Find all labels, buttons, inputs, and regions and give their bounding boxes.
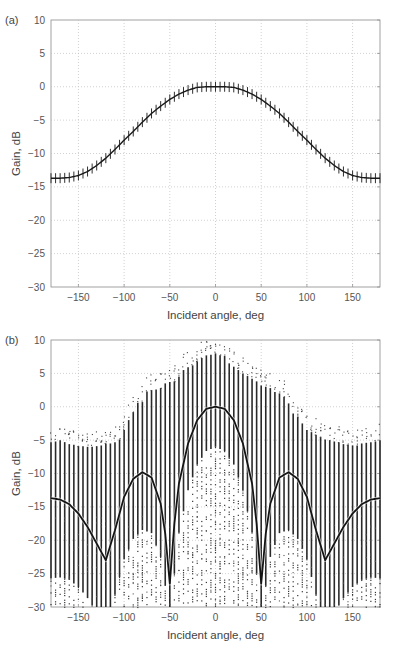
panel-label: (b) — [5, 334, 18, 346]
y-tick-label: −20 — [28, 535, 45, 546]
y-tick-label: −10 — [28, 468, 45, 479]
y-tick-label: −15 — [28, 501, 45, 512]
x-tick-label: 150 — [344, 292, 361, 303]
y-tick-label: −20 — [28, 215, 45, 226]
y-tick-label: 10 — [34, 15, 46, 26]
y-tick-label: −10 — [28, 148, 45, 159]
x-tick-label: 50 — [256, 612, 268, 623]
x-tick-label: −50 — [161, 292, 178, 303]
x-tick-label: −100 — [113, 612, 136, 623]
x-axis-label: Incident angle, deg — [167, 629, 264, 641]
y-tick-label: −30 — [28, 282, 45, 293]
x-tick-label: 0 — [213, 612, 219, 623]
panel-a-chart: 1050−5−10−15−20−25−30−150−100−5005010015… — [5, 14, 380, 321]
x-tick-label: 100 — [299, 292, 316, 303]
x-tick-label: −150 — [67, 292, 90, 303]
y-axis-label: Gain, dB — [10, 131, 22, 176]
y-tick-label: −5 — [34, 115, 46, 126]
y-tick-label: −5 — [34, 435, 46, 446]
x-tick-label: −150 — [67, 612, 90, 623]
y-tick-label: 5 — [39, 368, 45, 379]
y-tick-label: −15 — [28, 181, 45, 192]
panel-b-chart: 1050−5−10−15−20−25−30−150−100−5005010015… — [5, 334, 381, 641]
x-tick-label: 50 — [256, 292, 268, 303]
x-tick-label: 100 — [299, 612, 316, 623]
x-axis-label: Incident angle, deg — [167, 309, 264, 321]
gain-vs-angle-figure: 1050−5−10−15−20−25−30−150−100−5005010015… — [0, 0, 396, 657]
y-tick-label: 10 — [34, 335, 46, 346]
y-tick-label: −30 — [28, 602, 45, 613]
y-axis-label: Gain, dB — [10, 451, 22, 496]
y-tick-label: −25 — [28, 248, 45, 259]
panel-label: (a) — [5, 14, 18, 26]
y-tick-label: 0 — [39, 81, 45, 92]
x-tick-label: −100 — [113, 292, 136, 303]
x-tick-label: 0 — [213, 292, 219, 303]
y-tick-label: 5 — [39, 48, 45, 59]
x-tick-label: 150 — [344, 612, 361, 623]
y-tick-label: −25 — [28, 568, 45, 579]
y-tick-label: 0 — [39, 401, 45, 412]
x-tick-label: −50 — [161, 612, 178, 623]
